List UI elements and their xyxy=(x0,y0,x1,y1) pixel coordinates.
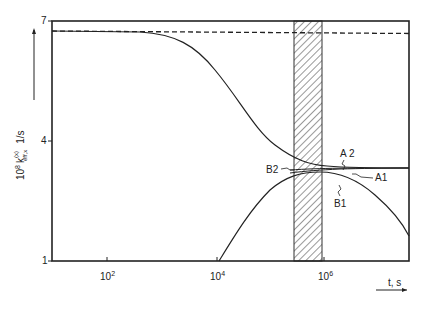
annotation-a1: A1 xyxy=(375,172,388,183)
y-axis-arrowhead-icon xyxy=(32,28,36,34)
leader-b1 xyxy=(338,185,341,196)
plot-frame xyxy=(52,21,409,261)
curve-upper-a2 xyxy=(52,31,409,168)
svg-text:108k(x)eff,x1/s: 108k(x)eff,x1/s xyxy=(13,130,28,180)
hatched-region xyxy=(294,21,322,261)
y-tick-label-7: 7 xyxy=(41,15,47,26)
y-axis-label: 108k(x)eff,x1/s xyxy=(13,130,28,180)
leader-b2 xyxy=(281,168,294,170)
x-tick-label-1e6: 106 xyxy=(318,270,333,282)
x-tick-label-1e4: 104 xyxy=(210,270,225,282)
annotation-b1: B1 xyxy=(334,198,347,209)
annotation-a2: A 2 xyxy=(340,148,355,159)
y-tick-label-1: 1 xyxy=(42,255,48,266)
annotation-b2: B2 xyxy=(266,164,279,175)
x-axis-arrowhead-icon xyxy=(402,288,407,292)
leader-a1 xyxy=(352,174,373,178)
x-tick-label-1e2: 102 xyxy=(100,270,115,282)
x-axis-label: t, s xyxy=(388,277,401,288)
chart: 7 4 1 102 104 106 t, s 108k(x)eff,x1/s A… xyxy=(0,0,433,309)
y-tick-label-4: 4 xyxy=(41,135,47,146)
